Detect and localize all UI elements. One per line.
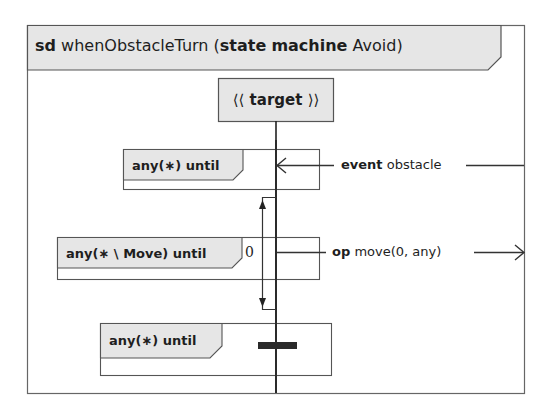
- title-keyword-sd: sd: [35, 36, 56, 55]
- message-event-keyword: event: [341, 157, 383, 172]
- diagram-title: sd whenObstacleTurn (state machine Avoid…: [35, 37, 403, 55]
- title-keyword-state: state: [220, 36, 266, 55]
- sequence-diagram: [0, 0, 557, 409]
- fragment-1-label: any(∗) until: [132, 157, 219, 175]
- left-guillemet: ⟨⟨: [233, 91, 245, 109]
- destruction-bar: [258, 342, 297, 349]
- right-guillemet: ⟩⟩: [308, 91, 320, 109]
- lifeline-stereotype: target: [250, 91, 303, 109]
- message-op-keyword: op: [332, 244, 350, 259]
- lifeline-label: ⟨⟨ target ⟩⟩: [226, 91, 326, 109]
- message-event-label: event obstacle: [341, 156, 442, 174]
- message-event-text: obstacle: [387, 157, 442, 172]
- fragment-2-label: any(∗ \ Move) until: [66, 245, 206, 263]
- message-op-label: op move(0, any): [332, 243, 441, 261]
- duration-constraint-value: 0: [245, 243, 254, 261]
- fragment-3-label: any(∗) until: [109, 332, 196, 350]
- title-close-paren: ): [396, 36, 402, 55]
- title-name: whenObstacleTurn: [61, 36, 208, 55]
- message-op-text: move(0, any): [354, 244, 441, 259]
- title-keyword-machine: machine: [271, 36, 347, 55]
- title-machine-name: Avoid: [353, 36, 397, 55]
